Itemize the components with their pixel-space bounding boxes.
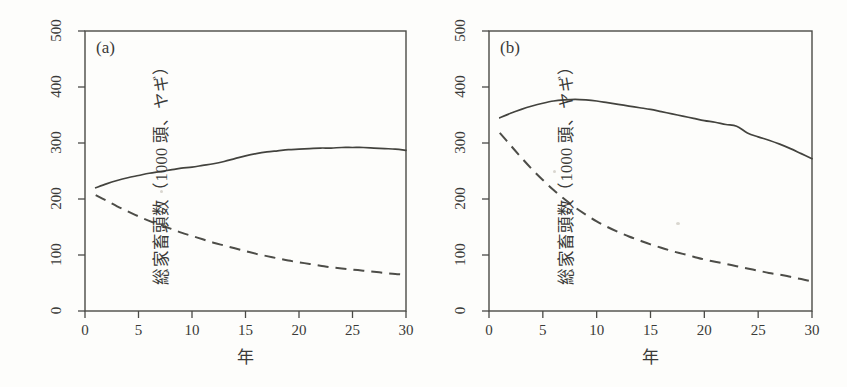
y-tick-label: 200	[48, 182, 65, 216]
chart-panel-a: 総家畜頭数（1000 頭、ヤギ） 年 (a) 01002003004005000…	[0, 0, 424, 387]
paper-speck	[553, 170, 556, 173]
x-tick-label: 30	[386, 322, 426, 339]
chart-panel-b: 総家畜頭数（1000 頭、ヤギ） 年 (b) 01002003004005000…	[423, 0, 847, 387]
y-tick-label: 200	[452, 182, 469, 216]
x-tick-label: 15	[226, 322, 266, 339]
x-tick-label: 25	[738, 322, 778, 339]
x-tick-label: 5	[119, 322, 159, 339]
figure-container: 総家畜頭数（1000 頭、ヤギ） 年 (a) 01002003004005000…	[0, 0, 847, 387]
series-line-solid	[500, 99, 812, 158]
x-tick-label: 30	[792, 322, 832, 339]
panel-tag-b: (b)	[500, 38, 520, 58]
x-tick-label: 5	[523, 322, 563, 339]
x-tick-label: 20	[684, 322, 724, 339]
y-tick-label: 400	[48, 70, 65, 104]
y-tick-label: 500	[48, 14, 65, 48]
series-line-dashed	[96, 195, 406, 275]
y-tick-label: 300	[452, 126, 469, 160]
paper-speck	[676, 222, 680, 225]
x-tick-label: 20	[279, 322, 319, 339]
y-axis-label-b: 総家畜頭数（1000 頭、ヤギ）	[554, 31, 580, 311]
y-tick-label: 500	[452, 14, 469, 48]
series-line-solid	[96, 147, 406, 187]
x-tick-label: 25	[333, 322, 373, 339]
paper-speck	[160, 190, 163, 193]
y-tick-label: 400	[452, 70, 469, 104]
y-axis-label-a: 総家畜頭数（1000 頭、ヤギ）	[149, 31, 175, 311]
y-tick-label: 100	[48, 238, 65, 272]
x-axis-label-a: 年	[85, 343, 406, 368]
x-tick-label: 10	[577, 322, 617, 339]
x-tick-label: 0	[469, 322, 509, 339]
y-tick-label: 100	[452, 238, 469, 272]
y-tick-label: 0	[452, 294, 469, 328]
y-tick-label: 300	[48, 126, 65, 160]
x-tick-label: 15	[631, 322, 671, 339]
x-tick-label: 0	[65, 322, 105, 339]
scan-artifact-strip	[0, 374, 847, 387]
x-axis-label-b: 年	[489, 343, 812, 368]
panel-tag-a: (a)	[96, 38, 115, 58]
x-tick-label: 10	[172, 322, 212, 339]
y-tick-label: 0	[48, 294, 65, 328]
series-line-dashed	[500, 133, 812, 281]
